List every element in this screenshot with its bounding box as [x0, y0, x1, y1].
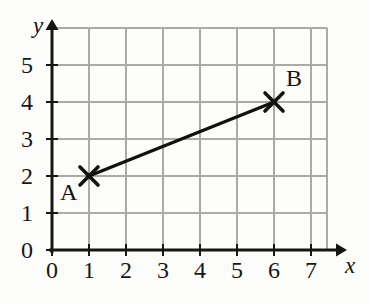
point-b-label: B: [286, 66, 302, 90]
y-tick-label-3: 3: [14, 127, 40, 151]
x-tick-label-5: 5: [223, 258, 251, 282]
y-tick-label-1: 1: [14, 201, 40, 225]
point-a-label: A: [60, 180, 77, 204]
coordinate-graph-figure: 0 1 2 3 4 5 6 7 0 1 2 3 4 5 y x A B: [0, 0, 370, 304]
x-tick-label-2: 2: [112, 258, 140, 282]
y-tick-label-5: 5: [14, 53, 40, 77]
x-axis-label: x: [345, 254, 355, 277]
x-tick-label-0: 0: [38, 258, 66, 282]
y-tick-label-0: 0: [14, 238, 40, 262]
y-axis: [46, 19, 59, 253]
y-tick-label-2: 2: [14, 164, 40, 188]
grid-horizontal-lines: [52, 28, 327, 213]
x-tick-label-6: 6: [260, 258, 288, 282]
y-tick-label-4: 4: [14, 90, 40, 114]
x-tick-label-1: 1: [75, 258, 103, 282]
y-axis-arrowhead: [46, 19, 59, 30]
x-tick-label-7: 7: [297, 258, 325, 282]
x-tick-label-4: 4: [186, 258, 214, 282]
x-tick-label-3: 3: [149, 258, 177, 282]
y-axis-label: y: [33, 14, 43, 37]
x-axis: [49, 244, 347, 257]
